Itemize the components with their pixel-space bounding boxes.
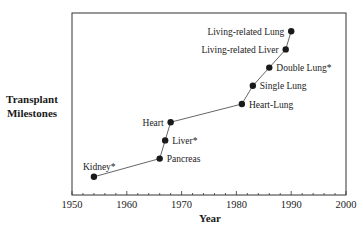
milestone-marker <box>283 46 289 52</box>
milestone-marker <box>91 174 97 180</box>
milestone-marker <box>266 64 272 70</box>
milestone-label: Heart <box>143 118 164 128</box>
x-tick-label: 1980 <box>226 199 247 210</box>
milestone-marker <box>167 119 173 125</box>
milestone-label: Living-related Liver <box>201 45 279 55</box>
milestone-label: Double Lung* <box>276 63 331 73</box>
milestone-label: Heart-Lung <box>249 100 294 110</box>
milestone-label: Liver* <box>172 136 198 146</box>
milestone-label: Living-related Lung <box>207 27 284 37</box>
milestone-label: Single Lung <box>260 81 307 91</box>
milestone-labels: Kidney*PancreasLiver*HeartHeart-LungSing… <box>83 27 332 172</box>
milestone-marker <box>239 101 245 107</box>
y-axis-label-line1: Transplant <box>0 92 64 106</box>
milestone-label: Pancreas <box>167 154 201 164</box>
milestone-marker <box>250 83 256 89</box>
milestone-marker <box>156 155 162 161</box>
y-axis-label-line2: Milestones <box>0 106 64 120</box>
milestone-label: Kidney* <box>83 162 116 172</box>
x-tick-label: 1990 <box>281 199 302 210</box>
x-axis-ticks <box>72 191 346 195</box>
x-tick-label: 1970 <box>171 199 192 210</box>
x-tick-label: 1960 <box>116 199 137 210</box>
y-axis-label: Transplant Milestones <box>0 92 64 120</box>
x-axis-tick-labels: 195019601970198019902000 <box>62 199 357 210</box>
x-tick-label: 2000 <box>336 199 357 210</box>
milestone-marker <box>162 137 168 143</box>
x-axis-label: Year <box>190 212 230 224</box>
x-tick-label: 1950 <box>62 199 83 210</box>
milestone-marker <box>288 28 294 34</box>
